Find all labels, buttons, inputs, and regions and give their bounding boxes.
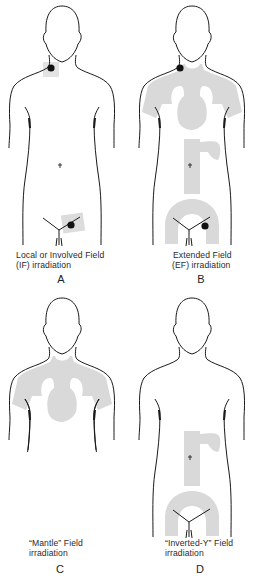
neck-node-icon (47, 64, 54, 71)
caption-d-line1: “Inverted-Y” Field (165, 538, 233, 548)
label-d: D (190, 563, 210, 575)
figure-a-local-field (9, 6, 115, 246)
caption-d-line2: irradiation (165, 548, 204, 558)
caption-b-line1: Extended Field (173, 250, 232, 260)
inguinal-node-icon (201, 222, 208, 229)
figure-c-mantle-field (0, 298, 130, 562)
figure-b-extended-field (139, 6, 245, 246)
label-b: B (191, 273, 211, 285)
radiation-fields-diagram (0, 0, 261, 582)
caption-b-line2: (EF) irradiation (172, 260, 230, 270)
neck-node-icon (176, 64, 183, 71)
label-a: A (51, 273, 71, 285)
inguinal-node-icon (67, 221, 74, 228)
label-c: C (50, 563, 70, 575)
caption-c-line1: “Mantle” Field (29, 538, 83, 548)
caption-c-line2: irradiation (29, 548, 68, 558)
figure-d-inverted-y-field (139, 298, 245, 538)
caption-a-line1: Local or Involved Field (16, 250, 104, 260)
caption-a-line2: (IF) irradiation (16, 260, 71, 270)
